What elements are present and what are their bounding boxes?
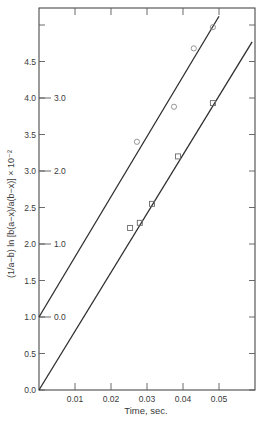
axis-tick-labels: 0.010.020.030.040.050.00.51.01.52.02.53.… (24, 57, 227, 405)
data-point-circle (191, 46, 196, 51)
y-tick-label: 1.5 (24, 276, 36, 286)
data-point-circle (134, 139, 139, 144)
y-axis-label: (1/a−b) ln [b(a−x)/a(b−x)] × 10⁻² (6, 150, 16, 278)
y-tick-label: 1.0 (24, 312, 36, 322)
data-point-square (128, 225, 133, 230)
y-tick-label: 0.0 (24, 385, 36, 395)
secondary-y-tick-label: 0.0 (54, 312, 66, 322)
x-axis-label: Time, sec. (124, 405, 167, 416)
data-point-square (175, 154, 180, 159)
y-tick-label: 4.0 (24, 93, 36, 103)
y-tick-label: 2.5 (24, 203, 36, 213)
y-tick-label: 2.0 (24, 239, 36, 249)
fit-line (39, 42, 252, 390)
x-tick-label: 0.05 (211, 394, 228, 404)
y-tick-label: 3.0 (24, 166, 36, 176)
x-tick-label: 0.04 (175, 394, 192, 404)
data-points (128, 25, 216, 231)
x-tick-label: 0.02 (103, 394, 120, 404)
y-tick-label: 0.5 (24, 349, 36, 359)
fit-lines (39, 16, 252, 390)
plot-frame (39, 8, 255, 390)
secondary-y-tick-label: 1.0 (54, 239, 66, 249)
data-point-circle (171, 104, 176, 109)
axis-ticks (39, 8, 255, 390)
y-tick-label: 3.5 (24, 130, 36, 140)
y-tick-label: 4.5 (24, 57, 36, 67)
fit-line (39, 16, 219, 317)
x-tick-label: 0.01 (67, 394, 84, 404)
secondary-y-tick-label: 2.0 (54, 166, 66, 176)
kinetics-plot: 0.010.020.030.040.050.00.51.01.52.02.53.… (0, 0, 263, 423)
secondary-y-tick-label: 3.0 (54, 93, 66, 103)
x-tick-label: 0.03 (139, 394, 156, 404)
